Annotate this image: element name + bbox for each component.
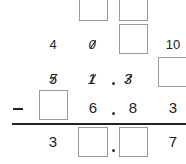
borrow-digit-0-struck: 0: [82, 36, 102, 54]
difference-decimal-point: [112, 149, 115, 152]
minuend-digit-1-struck: 1: [82, 70, 102, 88]
sum-line: [12, 123, 186, 125]
borrow-box-top-1[interactable]: [79, 0, 108, 21]
minuend-digit-3-struck: 3: [118, 70, 138, 88]
minuend-decimal-point: [112, 82, 115, 85]
subtrahend-box-tens[interactable]: [39, 90, 68, 120]
difference-box-tenths[interactable]: [119, 127, 148, 157]
subtrahend-digit-8: 8: [123, 99, 143, 117]
minuend-digit-5-struck: 5: [43, 70, 63, 88]
borrow-box-top-2[interactable]: [119, 0, 148, 21]
minuend-box-hundredths[interactable]: [158, 57, 186, 87]
subtrahend-digit-6: 6: [83, 99, 103, 117]
borrow-box-middle[interactable]: [119, 24, 148, 54]
minus-sign: [13, 108, 23, 110]
subtrahend-decimal-point: [112, 112, 115, 115]
difference-box-ones[interactable]: [78, 127, 108, 157]
difference-digit-3: 3: [43, 133, 63, 151]
borrow-digit-10: 10: [163, 36, 183, 54]
borrow-digit-4: 4: [43, 36, 63, 54]
subtrahend-digit-3: 3: [163, 99, 183, 117]
difference-digit-7: 7: [163, 133, 183, 151]
